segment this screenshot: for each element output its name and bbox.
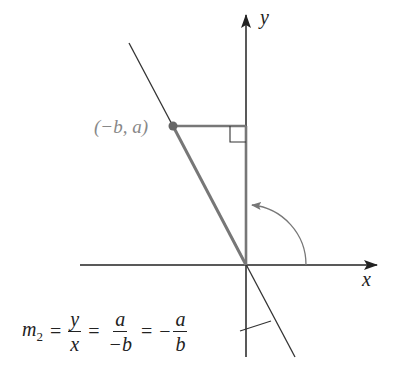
equals-sign: = (50, 320, 61, 343)
y-axis-label: y (260, 6, 269, 29)
rotation-arc (252, 205, 306, 265)
slope-symbol: m2 (22, 318, 43, 345)
fraction-a-over-b: a b (173, 309, 187, 354)
segment-origin-to-point (173, 126, 246, 265)
point-neg-b-a (169, 122, 178, 131)
point-label: (−b, a) (94, 116, 148, 138)
equals-sign: = (88, 320, 99, 343)
formula-leader-line (240, 321, 271, 331)
slope-formula: m2 = y x = a −b = − a b (22, 309, 187, 354)
fraction-a-over-neg-b: a −b (106, 309, 134, 354)
right-angle-marker (230, 126, 246, 142)
fraction-y-over-x: y x (68, 309, 81, 354)
equals-sign: = (141, 320, 152, 343)
negative-sign: − (159, 320, 170, 343)
x-axis-label: x (362, 268, 371, 291)
